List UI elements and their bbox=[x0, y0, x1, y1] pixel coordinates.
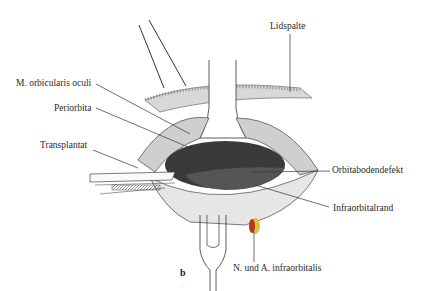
figure: Lidspalte M. orbicularis oculi Periorbit… bbox=[0, 0, 422, 291]
label-orbitabodendefekt: Orbitabodendefekt bbox=[332, 165, 403, 176]
label-transplantat: Transplantat bbox=[40, 140, 87, 151]
label-infraorbitalrand: Infraorbitalrand bbox=[333, 203, 393, 214]
label-lidspalte: Lidspalte bbox=[270, 21, 305, 32]
label-periorbita: Periorbita bbox=[54, 103, 91, 114]
panel-label: b bbox=[180, 267, 186, 278]
label-nerve-artery: N. und A. infraorbitalis bbox=[233, 263, 321, 274]
label-orbicularis: M. orbicularis oculi bbox=[16, 78, 91, 89]
